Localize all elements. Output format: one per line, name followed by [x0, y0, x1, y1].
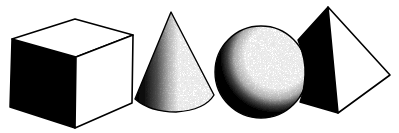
sphere-shape	[215, 26, 307, 118]
geometric-solids-illustration	[0, 0, 399, 133]
cube-shape	[10, 19, 133, 128]
pyramid-shape	[298, 7, 390, 113]
solids-drawing	[0, 0, 399, 133]
cone-shape	[135, 12, 214, 112]
